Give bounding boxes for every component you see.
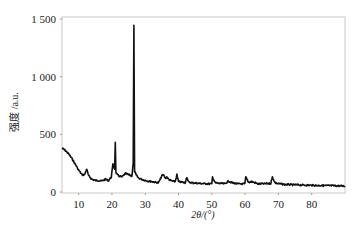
y-axis-title: 强度 /a.u. <box>8 92 20 132</box>
xrd-line <box>62 25 345 186</box>
x-tick-label: 10 <box>73 198 85 210</box>
y-tick-label: 1 500 <box>31 13 56 25</box>
y-tick-label: 1 000 <box>31 71 56 83</box>
plot-frame <box>62 17 345 193</box>
y-tick-label: 500 <box>40 128 57 140</box>
x-tick-label: 30 <box>140 198 152 210</box>
x-tick-label: 60 <box>240 198 252 210</box>
data-series <box>62 25 345 186</box>
x-tick-label: 40 <box>173 198 185 210</box>
x-tick-label: 70 <box>273 198 285 210</box>
x-axis-title: 2θ/(°) <box>191 209 215 221</box>
plot-border <box>62 17 345 193</box>
xrd-chart: 05001 0001 500 1020304050607080 2θ/(°) 强… <box>0 0 359 234</box>
x-axis-ticks: 1020304050607080 <box>73 193 318 210</box>
x-tick-label: 20 <box>106 198 118 210</box>
x-tick-label: 80 <box>306 198 318 210</box>
y-axis-ticks: 05001 0001 500 <box>31 13 62 198</box>
y-tick-label: 0 <box>51 186 57 198</box>
